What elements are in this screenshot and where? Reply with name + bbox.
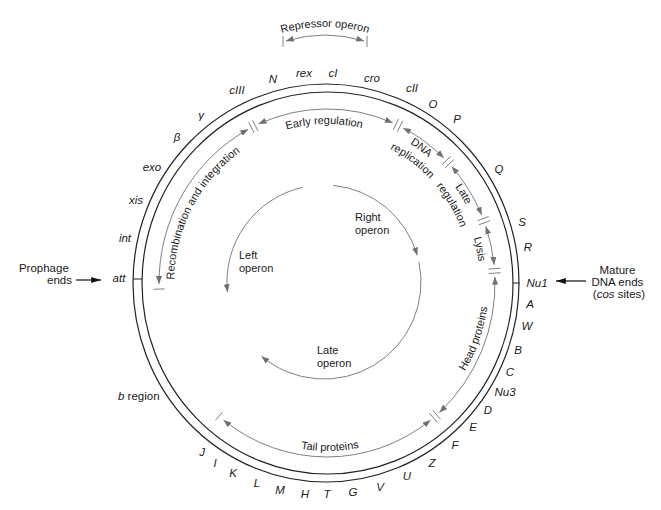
gene-label: E	[469, 421, 477, 433]
tick-mark	[253, 120, 258, 131]
tick-mark	[489, 268, 501, 269]
separator-double-tick	[442, 156, 454, 167]
gene-label: W	[522, 320, 534, 332]
repressor-operon-arrow	[286, 35, 364, 41]
tick-mark	[397, 121, 402, 132]
separator-double-tick	[249, 120, 258, 133]
gene-label: γ	[198, 109, 205, 121]
gene-label: Z	[427, 457, 436, 469]
lysis-label: Lysis	[472, 235, 489, 262]
gene-label: cIII	[229, 84, 245, 96]
mature-dna-ends-label: Mature DNA ends (cos sites)	[592, 264, 647, 300]
gene-label: F	[451, 439, 459, 451]
prophage-ends-label: Prophage ends	[19, 262, 72, 286]
gene-label: M	[275, 484, 285, 496]
gene-label: B	[514, 344, 522, 356]
separator-double-tick	[489, 268, 501, 273]
gene-label: U	[403, 470, 412, 482]
b-region-label: b region	[118, 390, 160, 402]
gene-label: R	[524, 241, 532, 253]
gene-label: N	[269, 73, 278, 85]
left-operon-label: Left operon	[239, 249, 273, 274]
separator-double-tick	[429, 410, 440, 422]
gene-label: cro	[364, 72, 381, 84]
separator-double-tick	[478, 217, 491, 225]
gene-label: C	[506, 366, 515, 378]
gene-label: β	[173, 131, 181, 143]
lambda-genetic-map: Repressor operon N rex cI cro cII O P Q …	[0, 0, 661, 510]
functional-region-labels: Recombination and integration Early regu…	[164, 114, 489, 453]
tick-mark	[249, 122, 254, 133]
gene-label: rex	[296, 67, 313, 79]
gene-label: H	[301, 488, 310, 500]
tick-mark	[478, 217, 489, 221]
gene-label: T	[323, 488, 331, 500]
gene-label: xis	[128, 194, 143, 206]
tick-mark	[393, 119, 398, 130]
left-operon-arrow	[227, 187, 303, 292]
late-operon-label: Late operon	[317, 344, 351, 369]
gene-label: A	[525, 298, 534, 310]
gene-label: cI	[329, 67, 339, 79]
tick-mark	[215, 412, 222, 420]
gene-label: Nu1	[526, 277, 547, 289]
repressor-operon-label: Repressor operon	[279, 17, 371, 35]
prophage-ends: Prophage ends	[19, 262, 101, 286]
gene-label: G	[349, 486, 358, 498]
tail-proteins-label: Tail proteins	[300, 438, 360, 453]
gene-label: att	[113, 272, 127, 284]
gene-label: Q	[495, 163, 504, 175]
gene-label: L	[254, 477, 260, 489]
mature-dna-ends: Mature DNA ends (cos sites)	[556, 264, 646, 300]
right-operon-label: Right operon	[355, 211, 389, 236]
gene-label: K	[229, 467, 238, 479]
early-regulation-label: Early regulation	[284, 114, 364, 132]
head-proteins-label: Head proteins	[456, 305, 489, 372]
gene-label: exo	[143, 161, 162, 173]
recombination-label: Recombination and integration	[164, 144, 242, 280]
separator-double-tick	[393, 119, 402, 132]
gene-label: int	[119, 232, 132, 244]
gene-label: V	[376, 481, 385, 493]
tick-mark	[479, 221, 490, 225]
end-tick	[215, 412, 222, 420]
gene-label: D	[484, 404, 492, 416]
gene-label: O	[429, 98, 438, 110]
gene-label: cII	[406, 82, 419, 94]
repressor-operon: Repressor operon	[279, 17, 371, 47]
gene-label: J	[198, 446, 205, 458]
gene-label: P	[453, 113, 461, 125]
gene-label: I	[213, 457, 217, 469]
functional-region-arrows	[154, 109, 501, 457]
dna-outer-strand	[133, 84, 519, 482]
tick-mark	[489, 273, 501, 274]
gene-label: S	[518, 216, 526, 228]
gene-labels: N rex cI cro cII O P Q S R Nu1 A W B C N…	[113, 67, 548, 500]
gene-label: Nu3	[494, 386, 516, 398]
dna-inner-strand	[142, 92, 513, 474]
